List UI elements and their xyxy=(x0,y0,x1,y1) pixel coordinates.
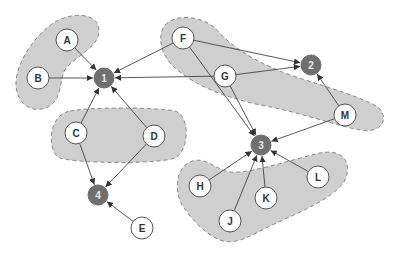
node-g: G xyxy=(214,65,236,87)
node-h: H xyxy=(189,175,211,197)
node-label: A xyxy=(63,35,70,46)
node-d: D xyxy=(143,125,165,147)
node-label: 2 xyxy=(308,60,314,71)
node-label: L xyxy=(315,172,321,183)
node-label: B xyxy=(34,73,41,84)
node-label: G xyxy=(221,71,229,82)
node-label: E xyxy=(139,223,146,234)
node-label: J xyxy=(227,216,233,227)
node-f: F xyxy=(172,27,194,49)
node-j: J xyxy=(219,210,241,232)
hub-node-1: 1 xyxy=(94,68,114,88)
node-b: B xyxy=(27,67,49,89)
edge-m-3 xyxy=(271,119,334,142)
node-label: 1 xyxy=(101,73,107,84)
node-label: K xyxy=(262,193,270,204)
node-label: M xyxy=(341,110,349,121)
node-a: A xyxy=(56,29,78,51)
hub-node-4: 4 xyxy=(88,185,108,205)
node-label: F xyxy=(180,33,186,44)
node-k: K xyxy=(255,187,277,209)
node-label: 4 xyxy=(95,190,101,201)
node-e: E xyxy=(131,217,153,239)
node-label: H xyxy=(196,181,203,192)
node-label: 3 xyxy=(258,140,264,151)
network-diagram: 1234ABCDEFGMHJKL xyxy=(0,0,397,259)
hub-node-2: 2 xyxy=(301,55,321,75)
node-label: C xyxy=(72,128,79,139)
node-l: L xyxy=(307,166,329,188)
hub-node-3: 3 xyxy=(251,135,271,155)
node-m: M xyxy=(334,104,356,126)
edge-f-1 xyxy=(114,43,173,73)
edge-e-4 xyxy=(107,202,133,222)
node-label: D xyxy=(150,131,157,142)
group-ab xyxy=(16,15,99,109)
node-c: C xyxy=(65,122,87,144)
